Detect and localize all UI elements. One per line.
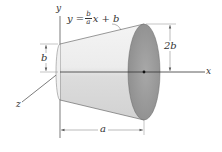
equation-lhs: y = [67,14,84,24]
length-label: a [98,124,108,134]
fraction-denominator: a [85,19,91,26]
frustum-diagram: y x z y = b a x + b b 2b a [0,0,222,152]
z-axis-label: z [16,100,21,109]
2b-dim-arrow-bottom [169,68,171,72]
b-dim-arrow-top [45,45,47,49]
equation-rhs: x + b [93,14,120,24]
x-axis-center-dot [143,71,146,74]
a-dim-arrow-right [140,129,144,131]
x-axis-label: x [206,67,211,76]
a-dim-arrow-left [61,129,65,131]
2b-dim-arrow-top [169,25,171,29]
left-radius-label: b [41,53,47,63]
equation-fraction: b a [85,11,91,26]
z-axis [22,72,60,102]
y-axis-label: y [56,4,61,13]
right-radius-label: 2b [164,41,177,51]
generating-line-equation: y = b a x + b [67,11,119,26]
b-dim-arrow-bottom [45,68,47,72]
